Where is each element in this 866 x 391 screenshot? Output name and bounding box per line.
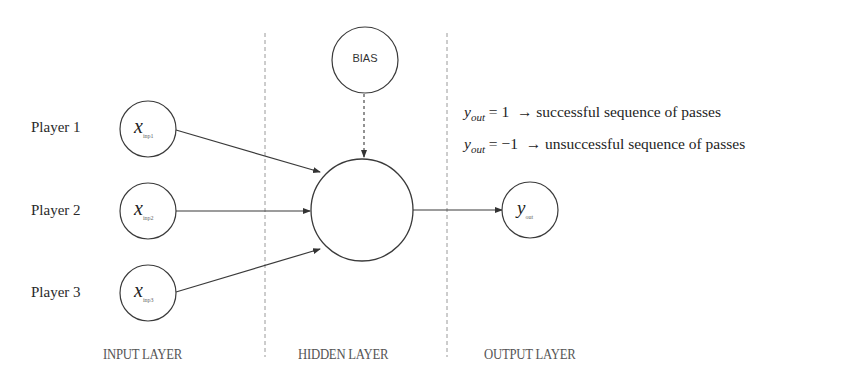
player-3-label: Player 3 [31, 284, 81, 301]
legend-success: yout = 1 → successful sequence of passes [464, 103, 721, 123]
legend-failure: yout = −1 → unsuccessful sequence of pas… [464, 135, 745, 155]
hidden-node [311, 159, 413, 261]
input-node-2-label: xinp2 [134, 197, 154, 221]
hidden-layer-label: HIDDEN LAYER [298, 346, 388, 363]
arrow-input-3 [176, 249, 320, 292]
player-1-label: Player 1 [31, 119, 81, 136]
input-layer-label: INPUT LAYER [103, 346, 182, 363]
arrow-icon: → [526, 135, 542, 152]
arrow-icon: → [517, 103, 533, 120]
network-diagram [0, 0, 866, 391]
player-2-label: Player 2 [31, 202, 81, 219]
arrow-input-1 [176, 130, 320, 172]
input-node-1-label: xinp1 [134, 115, 154, 139]
bias-label: BIAS [345, 52, 385, 64]
input-node-3-label: xinp3 [134, 279, 154, 303]
output-layer-label: OUTPUT LAYER [484, 346, 576, 363]
output-node-label: yout [517, 197, 533, 220]
